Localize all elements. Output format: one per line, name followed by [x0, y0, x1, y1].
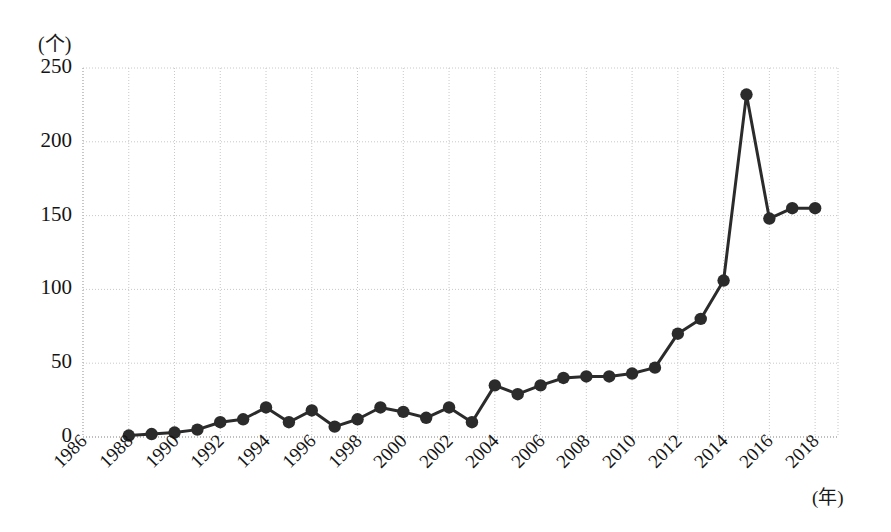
- data-point: [191, 423, 203, 435]
- data-point: [489, 379, 501, 391]
- data-point: [740, 88, 752, 100]
- data-point: [237, 413, 249, 425]
- data-point: [260, 401, 272, 413]
- data-point: [214, 416, 226, 428]
- data-point: [580, 370, 592, 382]
- data-point: [672, 327, 684, 339]
- y-axis-tick-label: 50: [10, 349, 72, 374]
- y-axis-tick-label: 250: [10, 54, 72, 79]
- line-chart-figure: (个) (年) 050100150200250 1986198819901992…: [0, 0, 891, 532]
- data-point: [283, 416, 295, 428]
- y-axis-tick-label: 150: [10, 202, 72, 227]
- data-point: [557, 372, 569, 384]
- data-point: [717, 274, 729, 286]
- data-point: [534, 379, 546, 391]
- data-point: [763, 212, 775, 224]
- y-axis-tick-label: 200: [10, 128, 72, 153]
- data-point: [466, 416, 478, 428]
- data-series-line: [129, 95, 815, 436]
- data-point: [512, 388, 524, 400]
- data-point: [786, 202, 798, 214]
- data-point: [695, 313, 707, 325]
- horizontal-gridlines: [83, 68, 838, 437]
- data-point: [397, 406, 409, 418]
- data-point: [649, 361, 661, 373]
- axis-lines: [83, 68, 838, 437]
- data-point: [306, 404, 318, 416]
- data-point: [374, 401, 386, 413]
- data-point: [626, 367, 638, 379]
- data-point: [145, 428, 157, 440]
- data-point: [351, 413, 363, 425]
- data-point: [443, 401, 455, 413]
- data-point: [420, 412, 432, 424]
- data-point: [809, 202, 821, 214]
- y-axis-tick-label: 100: [10, 275, 72, 300]
- vertical-gridlines: [83, 68, 838, 437]
- data-point: [603, 370, 615, 382]
- data-point: [328, 420, 340, 432]
